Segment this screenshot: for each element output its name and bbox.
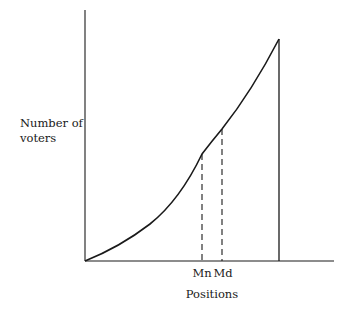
y-axis-label-line2: voters (19, 131, 56, 145)
y-axis-label-line1: Number of (20, 116, 84, 130)
voter-distribution-curve (85, 39, 279, 261)
x-axis-label: Positions (186, 287, 238, 301)
mean-label: Mn (192, 266, 212, 280)
distribution-diagram: Number of voters Mn Md Positions (0, 0, 352, 310)
median-label: Md (213, 266, 233, 280)
